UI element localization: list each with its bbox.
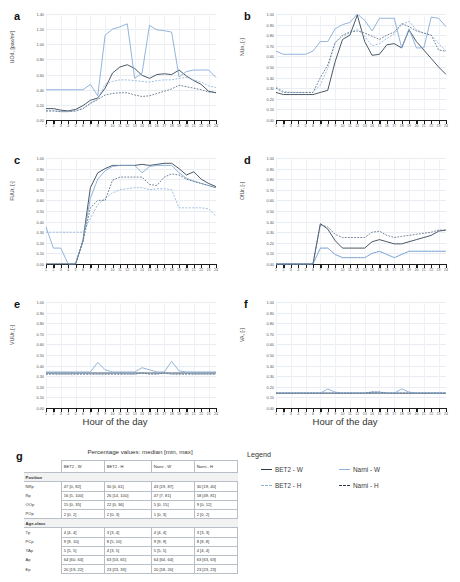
table-caption: Percentage values: median [min, max] [40, 448, 240, 455]
table-cell: 5 [0, 15] [152, 500, 195, 509]
x-tick-label: 3 [290, 268, 292, 272]
x-tick-label: 20 [184, 124, 188, 128]
x-tick-label: 13 [363, 124, 367, 128]
x-tick-label: 17 [162, 124, 166, 128]
x-tick-label: 14 [140, 124, 144, 128]
table-row: Rp16 [5, 100]26 [14, 100]47 [7, 81]58 [4… [24, 491, 238, 500]
table-cell: 5 [5, 5] [62, 546, 105, 555]
x-tick-label: 7 [319, 124, 321, 128]
table-group-label: Age-class [24, 519, 238, 528]
legend-item[interactable]: Narni - H [339, 482, 427, 489]
table-cell: 4 [4, 4] [152, 528, 195, 537]
x-tick-label: 12 [125, 268, 129, 272]
chart-panels: aUOd, [pax/m²]0.000.200.400.600.801.001.… [0, 0, 460, 435]
y-tick-label: 0.20 [266, 240, 274, 245]
x-tick-label: 16 [385, 124, 389, 128]
y-axis-label-f: VA, [-] [239, 293, 245, 377]
legend-items: BET2 - WNarni - WBET2 - HNarni - H [261, 466, 427, 489]
y-tick-label: 0.50 [266, 65, 274, 70]
x-tick-label: 9 [104, 124, 106, 128]
legend-item[interactable]: BET2 - H [261, 482, 339, 489]
x-tick-label: 1 [45, 124, 47, 128]
y-tick-label: 1.00 [36, 156, 44, 161]
panel-letter-b: b [244, 10, 251, 22]
x-tick-label: 5 [305, 268, 307, 272]
series-line [46, 24, 216, 96]
table-cell: 23 [23, 33] [105, 565, 152, 574]
legend-item[interactable]: BET2 - W [261, 466, 339, 473]
y-axis-label-d: OfUr, [-] [239, 149, 245, 233]
y-tick-label: 0.90 [266, 166, 274, 171]
legend-item-label: Narni - H [353, 482, 379, 489]
x-tick-label: 11 [348, 124, 352, 128]
table-cell: 8 [8, 8] [195, 537, 238, 546]
y-tick-label: 0.40 [266, 219, 274, 224]
legend-title: Legend [247, 450, 271, 459]
y-axis-label-a: UOd, [pax/m²] [9, 5, 15, 89]
y-tick-label: 0.00 [266, 406, 274, 411]
x-tick-label: 21 [192, 268, 196, 272]
table-body: PositionNRp47 [0, 82]30 [0, 61]43 [19, 8… [24, 473, 238, 574]
series-line [276, 15, 446, 95]
series-line [46, 188, 216, 233]
y-tick-label: 0.10 [266, 251, 274, 256]
x-tick-label: 9 [334, 124, 336, 128]
panel-f: fVA, [-]0.000.100.200.300.400.500.600.70… [230, 290, 460, 435]
y-tick-label: 0.20 [36, 240, 44, 245]
y-tick-label: 0.30 [36, 374, 44, 379]
y-tick-label: 0.10 [36, 395, 44, 400]
x-tick-label: 4 [297, 268, 299, 272]
plot-area-d: 0.000.100.200.300.400.500.600.700.800.90… [276, 158, 446, 264]
table-cell: 8 [5, 10] [105, 537, 152, 546]
table-row-label: OOp [24, 500, 62, 509]
y-tick-label: 0.90 [266, 22, 274, 27]
x-tick-label: 24 [444, 268, 448, 272]
series-line [276, 14, 446, 54]
series-line [46, 85, 216, 112]
x-tick-label: 11 [118, 268, 122, 272]
x-tick-label: 2 [282, 124, 284, 128]
y-tick-label: 0.30 [266, 230, 274, 235]
x-tick-label: 10 [341, 268, 345, 272]
x-tick-label: 3 [290, 124, 292, 128]
x-tick-label: 21 [192, 124, 196, 128]
x-tick-label: 20 [414, 124, 418, 128]
y-tick-label: 0.00 [36, 262, 44, 267]
legend-item[interactable]: Narni - W [339, 466, 427, 473]
x-tick-label: 20 [184, 268, 188, 272]
y-tick-label: 0.20 [266, 96, 274, 101]
y-tick-label: 1.00 [266, 300, 274, 305]
table-row-label: PCp [24, 537, 62, 546]
table-row: YAp5 [5, 5]4 [3, 5]5 [5, 5]4 [4, 4] [24, 546, 238, 555]
plot-area-c: 0.000.100.200.300.400.500.600.700.800.90… [46, 158, 216, 264]
table-cell: 4 [4, 4] [195, 546, 238, 555]
panel-a: aUOd, [pax/m²]0.000.200.400.600.801.001.… [0, 2, 230, 147]
y-tick-label: 0.10 [36, 251, 44, 256]
x-tick-label: 23 [437, 268, 441, 272]
x-tick-label: 9 [334, 268, 336, 272]
x-tick-label: 16 [385, 268, 389, 272]
table-cell: 30 [19, 40] [195, 482, 238, 491]
y-tick-label: 0.50 [266, 209, 274, 214]
y-tick-label: 0.80 [266, 321, 274, 326]
x-tick-label: 4 [67, 268, 69, 272]
x-tick-label: 1 [275, 268, 277, 272]
x-tick-label: 14 [370, 124, 374, 128]
series-line [46, 163, 216, 264]
y-tick-label: 0.60 [36, 198, 44, 203]
legend-line-icon [261, 469, 272, 470]
series-line [46, 65, 216, 111]
panel-letter-g: g [16, 450, 23, 462]
y-axis-label-b: NUn, [-] [239, 5, 245, 89]
x-tick-label: 4 [67, 124, 69, 128]
x-tick-label: 15 [377, 124, 381, 128]
x-tick-label: 12 [355, 124, 359, 128]
x-tick-label: 18 [170, 268, 174, 272]
x-tick-label: 3 [60, 124, 62, 128]
table-row-label: Ap [24, 555, 62, 564]
y-tick-label: 0.60 [36, 342, 44, 347]
table-cell: 63 [53, 65] [105, 555, 152, 564]
plot-area-b: 0.000.100.200.300.400.500.600.700.800.90… [276, 14, 446, 120]
series-canvas-d [276, 158, 446, 264]
x-tick-label: 5 [75, 124, 77, 128]
